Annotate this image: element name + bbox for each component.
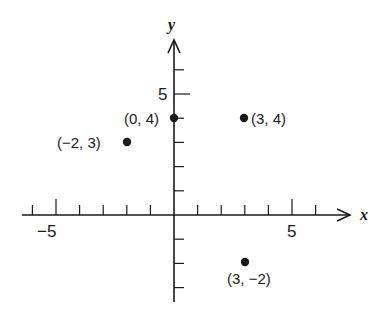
point-0-4 [170,114,178,122]
point-label-3-neg2: (3, −2) [227,270,271,287]
y-ticks [174,70,190,288]
points: (0, 4) (−2, 3) (3, 4) (3, −2) [57,110,286,287]
y-axis-label: y [166,16,176,34]
x-axis-label: x [359,206,368,223]
coordinate-plane: x y −5 5 5 (0, 4) (−2, 3) (3, 4) (3, −2) [0,0,386,316]
point-label-3-4: (3, 4) [251,110,286,127]
point-label-neg2-3: (−2, 3) [57,134,101,151]
point-3-neg2 [241,258,249,266]
point-neg2-3 [123,138,131,146]
x-tick-label-neg5: −5 [37,222,56,241]
point-3-4 [240,114,248,122]
y-tick-label-5: 5 [158,85,167,104]
x-tick-label-5: 5 [287,222,296,241]
point-label-0-4: (0, 4) [124,110,159,127]
axes [22,40,350,302]
